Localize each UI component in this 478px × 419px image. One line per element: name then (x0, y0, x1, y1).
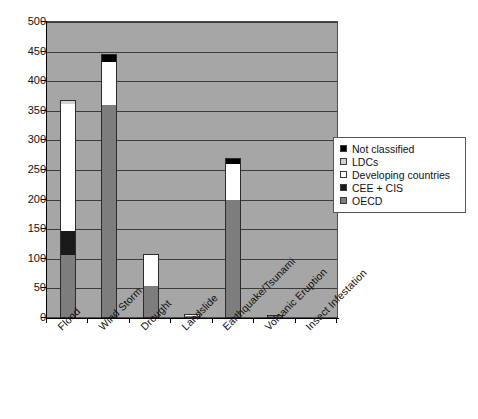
legend-item-label: Not classified (352, 143, 414, 155)
legend-swatch-icon (340, 184, 347, 191)
legend-item-cee-cis[interactable]: CEE + CIS (340, 181, 460, 194)
x-label-earthquake-tsunami: Earthquake/Tsunami (220, 255, 297, 332)
legend-item-label: Developing countries (352, 169, 450, 181)
x-label-wind-storm: Wind Storm (96, 285, 144, 333)
x-label-flood: Flood (55, 305, 82, 332)
legend-item-developing-countries[interactable]: Developing countries (340, 168, 460, 181)
legend-item-label: CEE + CIS (352, 182, 403, 194)
stacked-bar-chart: 050100150200250300350400450500 FloodWind… (0, 0, 478, 419)
x-label-drought: Drought (138, 297, 173, 332)
legend-swatch-icon (340, 145, 347, 152)
legend-swatch-icon (340, 158, 347, 165)
chart-legend: Not classifiedLDCsDeveloping countriesCE… (333, 137, 466, 213)
legend-item-label: LDCs (352, 156, 378, 168)
x-label-landslide: Landslide (179, 292, 220, 333)
legend-item-label: OECD (352, 195, 382, 207)
legend-swatch-icon (340, 197, 347, 204)
legend-item-ldcs[interactable]: LDCs (340, 155, 460, 168)
legend-item-not-classified[interactable]: Not classified (340, 142, 460, 155)
legend-entries: Not classifiedLDCsDeveloping countriesCE… (340, 142, 460, 207)
legend-swatch-icon (340, 171, 347, 178)
legend-item-oecd[interactable]: OECD (340, 194, 460, 207)
